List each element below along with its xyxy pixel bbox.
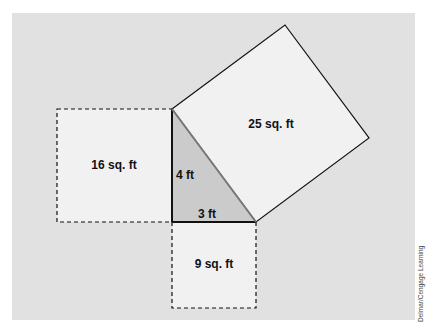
label-square-9: 9 sq. ft (195, 257, 234, 271)
label-side-3ft: 3 ft (198, 207, 216, 221)
label-square-25: 25 sq. ft (248, 117, 293, 131)
image-credit: Delmar/Cengage Learning (417, 245, 425, 322)
pythagorean-diagram: 16 sq. ft 25 sq. ft 9 sq. ft 4 ft 3 ft D… (0, 0, 441, 334)
label-square-16: 16 sq. ft (91, 158, 136, 172)
label-side-4ft: 4 ft (176, 168, 194, 182)
